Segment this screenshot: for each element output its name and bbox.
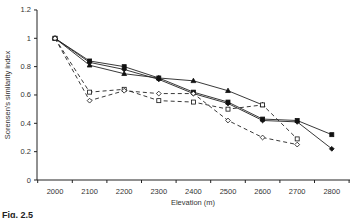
x-axis-title: Elevation (m) — [171, 198, 216, 207]
figure-caption: Fig. 2.5 — [2, 210, 33, 218]
x-tick-label: 2700 — [289, 187, 306, 196]
square-marker — [330, 133, 334, 137]
y-tick-label: 1.2 — [21, 5, 31, 14]
square-marker — [295, 137, 299, 141]
y-tick-label: 0 — [27, 176, 31, 185]
line-chart: 00.20.40.60.811.220002100220023002400250… — [0, 0, 359, 218]
x-tick-label: 2100 — [81, 187, 98, 196]
diamond-marker — [156, 91, 161, 96]
y-tick-label: 0.4 — [21, 119, 31, 128]
series-open-square — [53, 36, 299, 141]
x-tick-label: 2800 — [323, 187, 340, 196]
x-tick-label: 2300 — [150, 187, 167, 196]
y-tick-label: 0.8 — [21, 62, 31, 71]
square-marker — [261, 103, 265, 107]
y-tick-label: 1 — [27, 34, 31, 43]
square-marker — [88, 90, 92, 94]
series-line — [55, 38, 297, 139]
y-tick-label: 0.2 — [21, 147, 31, 156]
square-marker — [157, 99, 161, 103]
x-tick-label: 2000 — [47, 187, 64, 196]
diamond-marker — [87, 98, 92, 103]
series-group — [53, 36, 335, 152]
x-tick-label: 2500 — [220, 187, 237, 196]
square-marker — [191, 100, 195, 104]
series-line — [55, 38, 332, 134]
x-tick-label: 2600 — [254, 187, 271, 196]
diamond-marker — [260, 135, 265, 140]
y-axis-title: Sorensen's similarity index — [3, 50, 12, 139]
y-tick-label: 0.6 — [21, 90, 31, 99]
diamond-marker — [295, 142, 300, 147]
square-marker — [226, 107, 230, 111]
x-tick-label: 2200 — [116, 187, 133, 196]
axes: 00.20.40.60.811.220002100220023002400250… — [21, 5, 350, 196]
x-tick-label: 2400 — [185, 187, 202, 196]
